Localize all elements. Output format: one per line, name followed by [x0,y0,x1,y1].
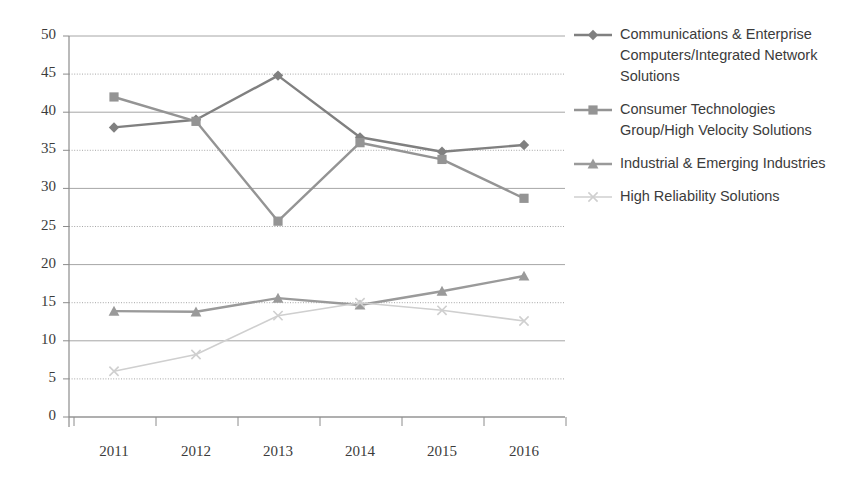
x-axis-tick-label: 2012 [161,443,231,460]
square-marker [109,92,118,101]
y-axis-tick-label: 25 [22,217,56,234]
legend-entry[interactable]: Communications & Enterprise Computers/In… [572,24,857,87]
y-axis-tick-label: 20 [22,255,56,272]
square-marker [191,117,200,126]
y-axis-tick-label: 40 [22,102,56,119]
y-axis-tick-label: 45 [22,64,56,81]
diamond-marker [588,30,598,40]
square-legend-icon [572,100,614,119]
x-axis-tick-label: 2013 [243,443,313,460]
chart-legend: Communications & Enterprise Computers/In… [572,24,857,219]
x-axis-tick-label: 2011 [79,443,149,460]
legend-label: Industrial & Emerging Industries [620,153,826,174]
square-marker [519,194,528,203]
square-marker [588,105,597,114]
x-legend-icon [572,187,614,206]
y-axis-tick-label: 35 [22,140,56,157]
legend-label: High Reliability Solutions [620,186,780,207]
series-4 [109,298,528,376]
series-line [114,303,524,372]
y-axis-tick-label: 30 [22,178,56,195]
axis-lines [69,36,566,427]
legend-label: Consumer Technologies Group/High Velocit… [620,99,852,141]
legend-label: Communications & Enterprise Computers/In… [620,24,852,87]
series-line [114,97,524,221]
x-axis-tick-label: 2015 [407,443,477,460]
y-axis-tick-label: 5 [22,369,56,386]
diamond-marker [519,140,529,150]
legend-entry[interactable]: Industrial & Emerging Industries [572,153,857,174]
diamond-legend-icon [572,25,614,44]
plot-area: 05101520253035404550 2011201220132014201… [0,0,580,493]
y-axis-tick-label: 15 [22,293,56,310]
y-axis-tick-label: 0 [22,407,56,424]
x-axis-tick-label: 2014 [325,443,395,460]
y-axis-tick-label: 10 [22,331,56,348]
line-chart: 05101520253035404550 2011201220132014201… [0,0,857,493]
plot-svg [0,0,580,493]
gridlines [63,36,565,417]
series-line [114,76,524,152]
legend-entry[interactable]: Consumer Technologies Group/High Velocit… [572,99,857,141]
square-marker [273,217,282,226]
triangle-legend-icon [572,154,614,173]
diamond-marker [109,122,119,132]
series-line [114,276,524,312]
x-axis-tick-label: 2016 [489,443,559,460]
square-marker [355,138,364,147]
square-marker [437,155,446,164]
y-axis-tick-label: 50 [22,26,56,43]
legend-entry[interactable]: High Reliability Solutions [572,186,857,207]
